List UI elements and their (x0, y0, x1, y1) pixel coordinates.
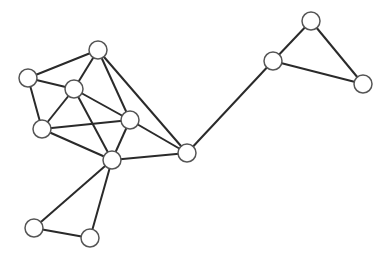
edge-A-E (98, 50, 130, 120)
edge-F-I (90, 160, 112, 238)
node-H (25, 219, 43, 237)
node-J (264, 52, 282, 70)
graph-edges (28, 21, 363, 238)
node-F (103, 151, 121, 169)
node-G (178, 144, 196, 162)
edge-A-G (98, 50, 187, 153)
node-C (65, 80, 83, 98)
edge-G-J (187, 61, 273, 153)
node-K (302, 12, 320, 30)
edge-J-L (273, 61, 363, 84)
network-graph (0, 0, 389, 258)
node-E (121, 111, 139, 129)
edge-F-H (34, 160, 112, 228)
edge-A-B (28, 50, 98, 78)
node-D (33, 120, 51, 138)
node-I (81, 229, 99, 247)
edge-D-F (42, 129, 112, 160)
node-L (354, 75, 372, 93)
edge-E-G (130, 120, 187, 153)
node-B (19, 69, 37, 87)
graph-nodes (19, 12, 372, 247)
edge-F-G (112, 153, 187, 160)
node-A (89, 41, 107, 59)
edge-D-E (42, 120, 130, 129)
edge-K-L (311, 21, 363, 84)
